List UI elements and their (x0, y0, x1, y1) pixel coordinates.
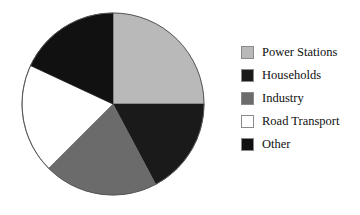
legend-item-industry[interactable]: Industry (241, 87, 360, 110)
pie-slice-group (22, 13, 204, 195)
legend-item-other[interactable]: Other (241, 133, 360, 156)
chart-legend: Power Stations Households Industry Road … (241, 41, 360, 156)
legend-label-industry: Industry (262, 92, 304, 105)
pie-chart-figure: Power Stations Households Industry Road … (0, 0, 360, 215)
legend-swatch-industry (241, 92, 254, 105)
pie-slice[interactable] (113, 13, 204, 104)
legend-label-road-transport: Road Transport (262, 115, 339, 128)
legend-swatch-power-stations (241, 46, 254, 59)
legend-item-power-stations[interactable]: Power Stations (241, 41, 360, 64)
legend-swatch-other (241, 138, 254, 151)
legend-swatch-road-transport (241, 115, 254, 128)
legend-item-road-transport[interactable]: Road Transport (241, 110, 360, 133)
legend-label-other: Other (262, 138, 290, 151)
legend-swatch-households (241, 69, 254, 82)
legend-item-households[interactable]: Households (241, 64, 360, 87)
legend-label-power-stations: Power Stations (262, 46, 337, 59)
legend-label-households: Households (262, 69, 321, 82)
pie-chart-graphic (0, 0, 230, 215)
